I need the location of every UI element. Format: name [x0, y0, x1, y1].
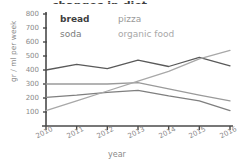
y-tick-label-200: 200 [19, 95, 39, 102]
series-line-soda [46, 90, 230, 110]
series-line-bread [46, 57, 230, 70]
y-tick-label-500: 500 [19, 53, 39, 60]
y-tick-label-700: 700 [19, 25, 39, 32]
y-tick-label-600: 600 [19, 39, 39, 46]
legend-item-bread: bread [60, 15, 90, 24]
y-tick-label-300: 300 [19, 81, 39, 88]
legend-item-pizza: pizza [118, 15, 141, 24]
series-line-pizza [46, 83, 230, 101]
x-axis-label: year [108, 151, 126, 159]
y-tick-label-800: 800 [19, 11, 39, 18]
y-tick-label-100: 100 [19, 109, 39, 116]
legend-item-soda: soda [60, 30, 81, 39]
line-chart: changes in diet 800700600500400300200100… [0, 0, 243, 165]
legend-item-organic-food: organic food [118, 30, 174, 39]
y-tick-label-400: 400 [19, 67, 39, 74]
y-axis-label: gr / ml per week [10, 22, 18, 82]
